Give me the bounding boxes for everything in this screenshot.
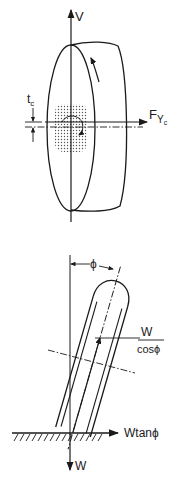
bottom-figure: W cosϕ ϕ Wtanϕ W [12,255,164,473]
ground-hatching [14,434,102,441]
lateral-force-label: FYc [149,107,168,126]
rotation-arrow-icon [91,58,99,82]
normal-force-denominator: cosϕ [137,343,160,355]
offset-label: tc [27,92,34,108]
normal-force-numerator: W [141,325,153,339]
tire-force-diagram: V FYc tc W [0,0,180,490]
lateral-force-label: Wtanϕ [124,426,159,440]
camber-angle-arrow-right [99,266,113,269]
vertical-axis-label: V [75,9,84,24]
camber-angle-label: ϕ [90,257,97,271]
weight-label: W [75,459,87,473]
top-figure: V FYc tc [25,9,168,222]
